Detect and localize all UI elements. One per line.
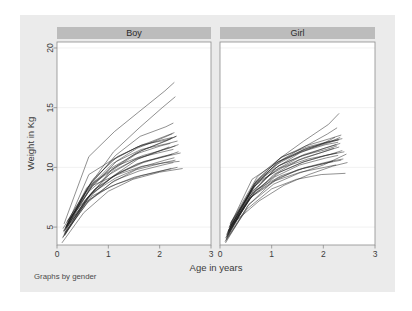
xtick-label-girl-3: 3 xyxy=(373,249,378,259)
xtick-label-boy-2: 2 xyxy=(157,249,162,259)
ytick-label-10: 10 xyxy=(46,162,56,172)
xtick-label-boy-1: 1 xyxy=(106,249,111,259)
xtick-label-girl-1: 1 xyxy=(269,249,274,259)
ytick-label-5: 5 xyxy=(46,224,56,229)
xtick-label-boy-3: 3 xyxy=(209,249,214,259)
chart-screenshot: Boy01235101520Girl0123Age in yearsWeight… xyxy=(0,0,412,311)
x-axis-title: Age in years xyxy=(190,262,243,273)
plot-area-boy xyxy=(57,42,211,245)
ytick-label-20: 20 xyxy=(46,43,56,53)
xtick-label-boy-0: 0 xyxy=(55,249,60,259)
chart-note: Graphs by gender xyxy=(34,272,97,281)
y-axis-title: Weight in Kg xyxy=(25,117,36,171)
panel-title-boy: Boy xyxy=(126,28,142,38)
xtick-label-girl-0: 0 xyxy=(218,249,223,259)
panel-title-girl: Girl xyxy=(291,28,305,38)
xtick-label-girl-2: 2 xyxy=(321,249,326,259)
ytick-label-15: 15 xyxy=(46,103,56,113)
chart-svg: Boy01235101520Girl0123Age in yearsWeight… xyxy=(0,0,412,311)
